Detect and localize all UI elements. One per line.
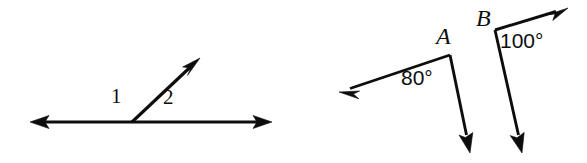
vertex-b-label: B [476,6,491,30]
ray-b-upright-arrowhead-icon [549,8,569,21]
vertex-a-label: A [436,24,451,48]
left-figure-group [30,58,272,129]
angle-b-measure-label: 100° [500,30,543,51]
diagonal-ray [132,66,192,123]
ray-a-left [350,55,450,89]
angle-2-label: 2 [163,87,174,108]
diagram-canvas [0,0,587,163]
ray-a-down [450,55,467,135]
angle-1-label: 1 [111,86,122,107]
ray-a-down-arrowhead-icon [459,133,473,153]
ray-a-left-arrowhead-icon [339,91,360,99]
ray-b-down-arrowhead-icon [510,132,524,153]
angle-a-measure-label: 80° [401,67,433,88]
ray-b-upright [495,12,556,31]
geometry-figure: 1 2 A B 80° 100° [0,0,587,163]
